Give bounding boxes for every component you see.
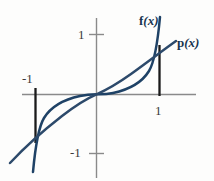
plot-canvas (0, 0, 214, 181)
curve-label-p-of-x: p(x) (177, 36, 199, 49)
x-axis-tick-label-negative-one: -1 (22, 72, 33, 85)
y-axis-tick-label-one: 1 (78, 28, 85, 41)
x-axis-tick-label-one: 1 (155, 104, 162, 117)
curve-label-f-arg: (x) (143, 13, 158, 28)
curve-label-p-arg: (x) (184, 35, 199, 50)
function-approximation-figure: 1 -1 -1 1 f(x) p(x) (0, 0, 214, 181)
y-axis-tick-label-negative-one: -1 (70, 146, 81, 159)
axis-group (22, 18, 196, 178)
curve-label-f-of-x: f(x) (139, 14, 159, 27)
